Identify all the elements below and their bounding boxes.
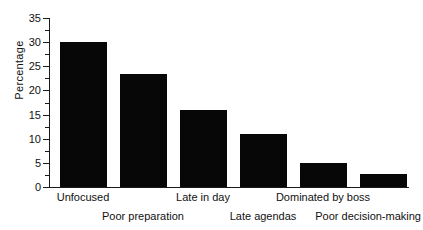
y-axis-line bbox=[49, 18, 50, 187]
plot-area: 05101520253035 bbox=[49, 18, 409, 187]
bar bbox=[180, 110, 227, 187]
y-tick-label: 30 bbox=[29, 37, 41, 48]
bar-chart: Percentage 05101520253035 UnfocusedPoor … bbox=[0, 0, 423, 230]
y-tick-label: 20 bbox=[29, 85, 41, 96]
y-tick-label: 5 bbox=[35, 157, 41, 168]
y-tick-mark bbox=[43, 115, 49, 116]
y-tick-label: 15 bbox=[29, 109, 41, 120]
x-axis-category-labels: UnfocusedPoor preparationLate in dayLate… bbox=[49, 188, 423, 230]
y-tick-minor-mark bbox=[45, 151, 49, 152]
x-axis-label: Late agendas bbox=[230, 211, 297, 222]
bar bbox=[300, 163, 347, 187]
bar bbox=[120, 74, 167, 187]
y-axis-label: Percentage bbox=[13, 25, 25, 115]
x-axis-label: Poor decision-making bbox=[315, 211, 421, 222]
y-tick-minor-mark bbox=[45, 175, 49, 176]
y-tick-mark bbox=[43, 66, 49, 67]
y-tick-label: 10 bbox=[29, 133, 41, 144]
y-tick-label: 35 bbox=[29, 13, 41, 24]
x-axis-label: Dominated by boss bbox=[276, 192, 370, 203]
x-axis-label: Unfocused bbox=[57, 192, 110, 203]
y-tick-minor-mark bbox=[45, 127, 49, 128]
y-tick-mark bbox=[43, 163, 49, 164]
y-tick-minor-mark bbox=[45, 30, 49, 31]
bar bbox=[360, 174, 407, 187]
y-tick-mark bbox=[43, 18, 49, 19]
y-tick-minor-mark bbox=[45, 78, 49, 79]
y-tick-mark bbox=[43, 90, 49, 91]
y-tick-minor-mark bbox=[45, 103, 49, 104]
x-axis-label: Poor preparation bbox=[102, 211, 184, 222]
x-axis-label: Late in day bbox=[176, 192, 230, 203]
bar bbox=[240, 134, 287, 187]
y-tick-minor-mark bbox=[45, 54, 49, 55]
y-tick-mark bbox=[43, 139, 49, 140]
y-tick-mark bbox=[43, 42, 49, 43]
bar bbox=[60, 42, 107, 187]
y-tick-label: 0 bbox=[35, 182, 41, 193]
y-tick-label: 25 bbox=[29, 61, 41, 72]
